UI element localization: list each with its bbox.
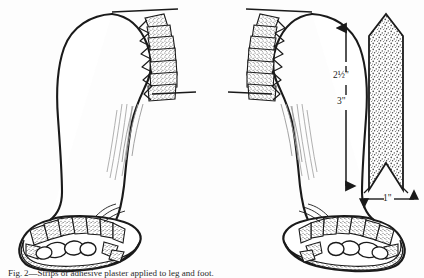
dimension-label-upper: 2½" [333,71,349,81]
figure-caption: Fig. 2—Strips of adhesive plaster applie… [8,268,418,278]
illustration-svg [0,0,424,278]
dimension-label-lower: 3" [337,97,346,107]
figure-container: 2½" 3" 1" Fig. 2—Strips of adhesive plas… [0,0,424,278]
panel-strip-pattern [369,14,403,190]
fabric-strip-shape [369,14,403,190]
dimension-label-width: 1" [383,194,392,204]
